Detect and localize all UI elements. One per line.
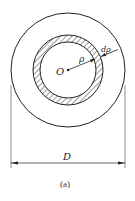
diameter-label: D — [62, 151, 71, 162]
dim-arrow-left — [11, 162, 18, 165]
radius-label: ρ — [78, 54, 85, 64]
ring-width-label: dρ — [101, 45, 111, 54]
cross-section-diagram: O ρ dρ D (a) — [0, 0, 135, 201]
dim-arrow-right — [118, 162, 125, 165]
center-label: O — [56, 66, 64, 77]
figure-caption: (a) — [60, 179, 70, 189]
